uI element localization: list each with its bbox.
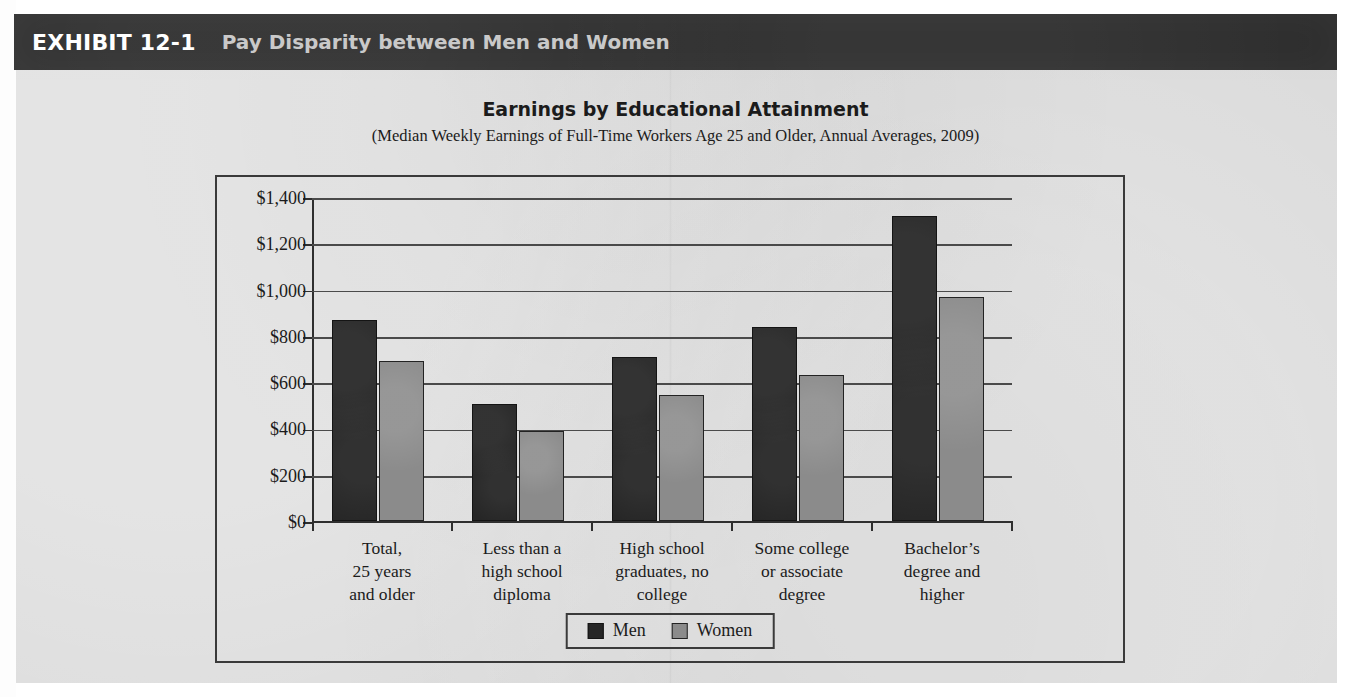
y-axis-tick-label: $0 <box>214 512 306 533</box>
x-axis-line <box>312 521 1012 523</box>
x-axis-label-line: Bachelor’s <box>852 537 1032 560</box>
plot-area: $1,400$1,200$1,000$800$600$400$200$0Tota… <box>312 199 1012 523</box>
legend-item-men: Men <box>588 620 646 641</box>
bar-women-4 <box>939 297 984 521</box>
legend-label: Men <box>613 620 646 641</box>
bar-men-1 <box>472 404 517 521</box>
exhibit-number: EXHIBIT 12-1 <box>32 30 196 55</box>
chart-subtitle: (Median Weekly Earnings of Full-Time Wor… <box>14 126 1337 146</box>
y-axis-tick-label: $1,400 <box>214 188 306 209</box>
y-axis-tick-label: $200 <box>214 466 306 487</box>
x-axis-category-label: Bachelor’sdegree andhigher <box>852 537 1032 606</box>
gridline <box>312 198 1012 200</box>
legend-swatch-men-icon <box>588 623 604 639</box>
x-axis-tick <box>591 521 593 531</box>
exhibit-header-band: EXHIBIT 12-1 Pay Disparity between Men a… <box>14 14 1337 70</box>
bar-women-1 <box>519 431 564 521</box>
y-axis-tick-label: $400 <box>214 419 306 440</box>
y-axis-tick-label: $800 <box>214 327 306 348</box>
chart-frame: $1,400$1,200$1,000$800$600$400$200$0Tota… <box>215 175 1125 663</box>
y-axis-line <box>312 199 314 523</box>
y-axis-tick-label: $600 <box>214 373 306 394</box>
x-axis-tick <box>312 521 314 531</box>
chart-title: Earnings by Educational Attainment <box>14 98 1337 120</box>
chart-legend: MenWomen <box>566 613 775 649</box>
x-axis-tick <box>871 521 873 531</box>
legend-swatch-women-icon <box>672 623 688 639</box>
x-axis-label-line: higher <box>852 583 1032 606</box>
x-axis-label-line: degree and <box>852 560 1032 583</box>
exhibit-title: Pay Disparity between Men and Women <box>222 30 670 54</box>
bar-men-4 <box>892 216 937 521</box>
bar-men-3 <box>752 327 797 521</box>
bar-women-2 <box>659 395 704 521</box>
bar-women-3 <box>799 375 844 521</box>
x-axis-tick <box>1011 521 1013 531</box>
legend-label: Women <box>697 620 753 641</box>
x-axis-tick <box>731 521 733 531</box>
legend-item-women: Women <box>672 620 753 641</box>
y-axis-tick-label: $1,000 <box>214 281 306 302</box>
y-axis-tick-label: $1,200 <box>214 234 306 255</box>
bar-women-0 <box>379 361 424 521</box>
page-canvas: EXHIBIT 12-1 Pay Disparity between Men a… <box>0 0 1349 697</box>
x-axis-tick <box>451 521 453 531</box>
bar-men-2 <box>612 357 657 521</box>
bar-men-0 <box>332 320 377 521</box>
